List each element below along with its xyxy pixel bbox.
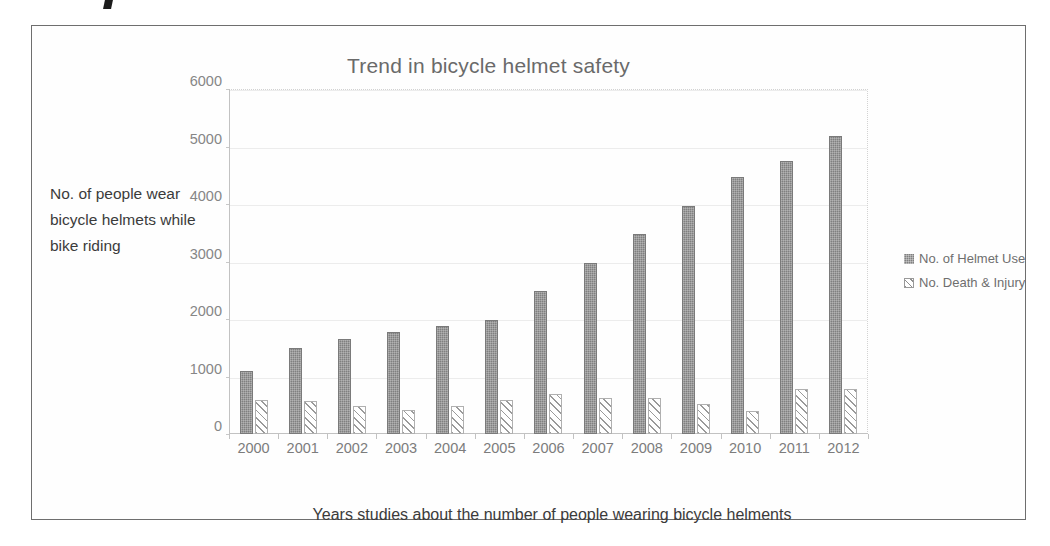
x-axis-tick-label: 2006 [532,440,564,456]
bar-death-injury[interactable] [304,401,317,434]
bar-helmet-use[interactable] [485,320,498,434]
legend-item[interactable]: No. of Helmet Use [904,248,1050,269]
x-axis-tick-label: 2004 [434,440,466,456]
bar-group [573,89,622,434]
bar-group [671,89,720,434]
bar-helmet-use[interactable] [240,371,253,434]
x-axis-tick-label: 2001 [287,440,319,456]
bar-helmet-use[interactable] [780,161,793,434]
bar-group [278,89,327,434]
x-axis-tick-mark [573,434,574,439]
x-axis-tick-mark [278,434,279,439]
chart-figure-frame: Trend in bicycle helmet safety No. of pe… [31,25,1026,520]
legend-swatch-helmet-icon [904,254,914,264]
x-axis-tick-mark [524,434,525,439]
bar-death-injury[interactable] [746,411,759,434]
y-axis-tick-label: 4000 [152,188,222,204]
y-axis-tick-labels: 0100020003000400050006000 [152,81,222,426]
scan-artifact-speck [103,0,113,9]
y-axis-tick-label: 3000 [152,246,222,262]
bar-group [327,89,376,434]
legend-item[interactable]: No. Death & Injury [904,272,1050,293]
x-axis-title: Years studies about the number of people… [212,506,892,524]
y-axis-tick-label: 0 [152,418,222,434]
bar-helmet-use[interactable] [387,332,400,434]
bar-group [475,89,524,434]
bar-helmet-use[interactable] [584,263,597,434]
bar-helmet-use[interactable] [534,291,547,434]
legend-item-label: No. of Helmet Use [919,251,1025,266]
bar-group [819,89,868,434]
bar-death-injury[interactable] [599,398,612,434]
bar-death-injury[interactable] [255,400,268,435]
chart-legend: No. of Helmet UseNo. Death & Injury [904,248,1050,296]
bar-group [770,89,819,434]
x-axis-tick-mark [671,434,672,439]
bar-helmet-use[interactable] [289,348,302,434]
bar-group [376,89,425,434]
legend-swatch-hatched-icon [904,278,914,288]
bar-helmet-use[interactable] [338,339,351,434]
x-axis-tick-label: 2010 [729,440,761,456]
x-axis-tick-label: 2007 [582,440,614,456]
x-axis-tick-label: 2000 [237,440,269,456]
bar-helmet-use[interactable] [436,326,449,434]
bar-death-injury[interactable] [795,389,808,434]
bar-death-injury[interactable] [549,394,562,434]
x-axis-tick-mark [770,434,771,439]
x-axis-tick-mark [721,434,722,439]
bar-helmet-use[interactable] [731,177,744,434]
x-axis-tick-label: 2012 [827,440,859,456]
x-axis-tick-mark [622,434,623,439]
y-axis-tick-label: 1000 [152,361,222,377]
x-axis-tick-label: 2005 [483,440,515,456]
bar-death-injury[interactable] [697,404,710,434]
x-axis-tick-mark [475,434,476,439]
bar-helmet-use[interactable] [829,136,842,434]
bar-death-injury[interactable] [500,400,513,434]
x-axis-tick-label: 2009 [680,440,712,456]
y-axis-tick-label: 2000 [152,303,222,319]
y-axis-tick-label: 6000 [152,73,222,89]
x-axis-tick-mark [819,434,820,439]
y-axis-tick-label: 5000 [152,131,222,147]
bar-death-injury[interactable] [648,398,661,434]
bar-group [524,89,573,434]
x-axis-tick-mark [229,434,230,439]
x-axis-tick-label: 2011 [779,440,810,456]
x-axis-tick-mark [376,434,377,439]
x-axis-tick-label: 2003 [385,440,417,456]
bar-helmet-use[interactable] [633,234,646,434]
bar-death-injury[interactable] [402,410,415,434]
bar-helmet-use[interactable] [682,206,695,434]
bar-group [721,89,770,434]
x-axis-tick-mark [327,434,328,439]
bar-group [622,89,671,434]
x-axis-tick-label: 2002 [336,440,368,456]
bar-death-injury[interactable] [353,406,366,434]
legend-item-label: No. Death & Injury [919,275,1025,290]
x-axis-tick-label: 2008 [631,440,663,456]
bar-group [426,89,475,434]
bar-death-injury[interactable] [451,406,464,434]
bar-death-injury[interactable] [844,389,857,434]
bar-group [229,89,278,434]
x-axis-tick-labels: 2000200120022003200420052006200720082009… [229,440,868,464]
x-axis-tick-mark [426,434,427,439]
x-axis-tick-mark [868,434,869,439]
chart-title-text: Trend in bicycle helmet safety [347,54,630,78]
bar-series-layer [229,89,868,434]
